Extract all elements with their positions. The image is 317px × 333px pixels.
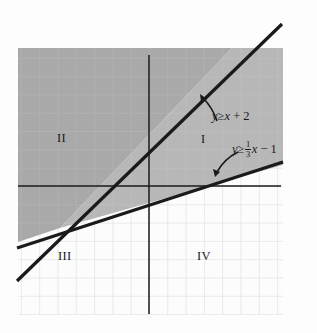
- ineq2-frac-numerator: 1: [245, 140, 251, 149]
- ineq2-constant: 1: [271, 142, 277, 156]
- inequality-label-2: y≥13x − 1: [232, 140, 277, 158]
- quadrant-label-iii: III: [58, 250, 71, 263]
- ineq2-fraction: 13: [245, 140, 251, 158]
- graph-canvas: [0, 0, 317, 333]
- quadrant-label-iv: IV: [197, 250, 211, 263]
- ineq2-minus: −: [260, 142, 267, 156]
- quadrant-label-i: I: [201, 133, 205, 146]
- ineq2-relation: ≥: [238, 142, 245, 156]
- grid-overlay: [18, 48, 283, 315]
- ineq1-plus: +: [233, 109, 240, 123]
- ineq1-expr-var: x: [224, 109, 230, 123]
- ineq1-constant: 2: [243, 109, 249, 123]
- ineq2-expr-var: x: [252, 142, 258, 156]
- quadrant-label-ii: II: [57, 132, 66, 145]
- inequality-label-1: y≥x + 2: [212, 110, 250, 123]
- ineq2-frac-denominator: 3: [245, 149, 251, 159]
- inequality-graph-figure: II I III IV y≥x + 2 y≥13x − 1: [0, 0, 317, 333]
- shade-above-steep-line: [18, 0, 283, 48]
